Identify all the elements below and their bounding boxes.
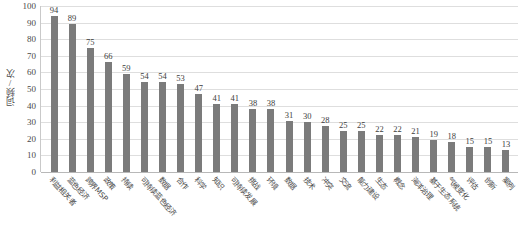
bar-value-label: 75 (86, 38, 95, 47)
bar: 22 (394, 135, 401, 172)
x-label-slot: 可持续蓝色经济 (135, 174, 153, 248)
bar: 54 (141, 82, 148, 172)
bar-slot: 59 (117, 6, 135, 172)
x-axis-category-label: 技术 (301, 176, 316, 191)
y-axis-tick-label: 100 (23, 2, 37, 11)
bar-value-label: 13 (502, 140, 511, 149)
x-label-slot: 概念 (388, 174, 406, 248)
x-axis-category-label: 知识 (211, 176, 226, 191)
bar-slot: 47 (190, 6, 208, 172)
bar-value-label: 25 (357, 121, 366, 130)
bar-slot: 15 (461, 6, 479, 172)
bar: 15 (466, 147, 473, 172)
bar: 22 (376, 135, 383, 172)
y-axis-tick-label: 10 (27, 151, 36, 160)
bar: 59 (123, 74, 130, 172)
bar-value-label: 47 (194, 84, 203, 93)
x-axis-category-label: 数据 (283, 176, 298, 191)
y-axis-tick-label: 60 (27, 68, 36, 77)
y-axis-tick-labels: 1009080706050403020100 (16, 6, 38, 172)
bar: 15 (484, 147, 491, 172)
bar: 19 (430, 140, 437, 172)
bar: 21 (412, 137, 419, 172)
bar-slot: 28 (316, 6, 334, 172)
x-label-slot: 海洋治理 (406, 174, 424, 248)
x-axis-category-label: 生态 (374, 176, 389, 191)
bar-value-label: 31 (285, 111, 294, 120)
y-axis-tick-label: 40 (27, 101, 36, 110)
bar-value-label: 15 (466, 137, 475, 146)
x-label-slot: 数据 (279, 174, 297, 248)
x-label-slot: 持续 (116, 174, 134, 248)
bar-value-label: 21 (411, 127, 420, 136)
x-label-slot: 技术 (298, 174, 316, 248)
bar: 25 (358, 131, 365, 173)
x-label-slot: 科学 (189, 174, 207, 248)
bar: 66 (105, 62, 112, 172)
x-label-slot: 创新 (479, 174, 497, 248)
y-axis-tick-label: 20 (27, 134, 36, 143)
x-axis-category-label: 挑战 (247, 176, 262, 191)
bar-slot: 66 (99, 6, 117, 172)
x-label-slot: 基于生态系统 (424, 174, 442, 248)
x-label-slot: 评估 (461, 174, 479, 248)
bar: 18 (448, 142, 455, 172)
bar-slot: 22 (370, 6, 388, 172)
x-axis-category-label: 科学 (192, 176, 207, 191)
bar-value-label: 18 (448, 132, 457, 141)
bar-value-label: 54 (140, 72, 149, 81)
bar-value-label: 19 (429, 130, 438, 139)
bar-slot: 18 (443, 6, 461, 172)
x-label-slot: 交流 (334, 174, 352, 248)
x-axis-category-label: 环境 (265, 176, 280, 191)
bar: 94 (51, 16, 58, 172)
bar-slot: 13 (497, 6, 515, 172)
bar: 54 (159, 82, 166, 172)
bar-slot: 89 (63, 6, 81, 172)
bar-slot: 25 (334, 6, 352, 172)
bar-value-label: 38 (249, 99, 258, 108)
bar-value-label: 28 (321, 116, 330, 125)
bar-value-label: 25 (339, 121, 348, 130)
bar-value-label: 53 (176, 74, 185, 83)
bar-value-label: 15 (484, 137, 493, 146)
bar-chart: 词频/次 1009080706050403020100 948975665954… (0, 0, 523, 248)
bar-value-label: 41 (212, 94, 221, 103)
bar: 28 (322, 126, 329, 172)
bar-slot: 41 (208, 6, 226, 172)
x-axis-category-label: 创新 (482, 176, 497, 191)
bar-slot: 15 (479, 6, 497, 172)
bar-slot: 38 (244, 6, 262, 172)
bar: 25 (340, 131, 347, 173)
bar: 13 (502, 150, 509, 172)
bar-value-label: 30 (303, 112, 312, 121)
y-axis-tick-label: 50 (27, 85, 36, 94)
x-axis-category-labels: 利益相关者蓝色经济跨界MSP政策持续可持续蓝色经济数据合作科学知识可持续发展挑战… (40, 174, 518, 248)
bar: 41 (231, 104, 238, 172)
bar-slot: 22 (388, 6, 406, 172)
bar-series: 9489756659545453474141383831302825252222… (41, 6, 518, 172)
bar-value-label: 94 (50, 6, 59, 15)
bar-value-label: 22 (375, 125, 384, 134)
bar-value-label: 66 (104, 52, 113, 61)
bar: 41 (213, 104, 220, 172)
x-label-slot: 生态 (370, 174, 388, 248)
y-axis-tick-label: 30 (27, 118, 36, 127)
x-label-slot: 利益相关者 (44, 174, 62, 248)
bar: 31 (286, 121, 293, 172)
axis-baseline (41, 172, 518, 173)
x-axis-category-label: 案例 (500, 176, 515, 191)
bar-slot: 21 (407, 6, 425, 172)
y-axis-tick-label: 80 (27, 35, 36, 44)
bar-slot: 38 (262, 6, 280, 172)
bar: 89 (69, 24, 76, 172)
plot-area: 9489756659545453474141383831302825252222… (40, 6, 518, 172)
bar-slot: 94 (45, 6, 63, 172)
x-axis-category-label: 冲突 (319, 176, 334, 191)
x-label-slot: 可持续发展 (225, 174, 243, 248)
x-axis-category-label: 政策 (102, 176, 117, 191)
bar: 30 (304, 122, 311, 172)
x-label-slot: 蓝色经济 (62, 174, 80, 248)
x-axis-category-label: 数据 (156, 176, 171, 191)
x-label-slot: 气候变化 (442, 174, 460, 248)
